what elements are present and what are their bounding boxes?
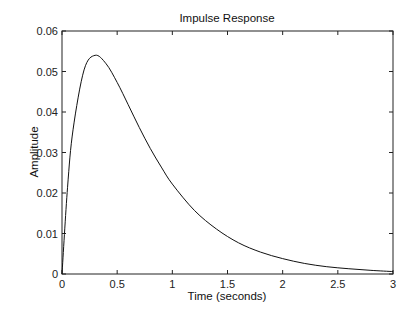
y-tick-label: 0 [52, 268, 58, 280]
x-axis: 00.511.522.53 [59, 31, 396, 290]
x-tick-label: 0 [59, 278, 65, 290]
plot-area [62, 31, 393, 274]
y-tick-label: 0.05 [37, 66, 58, 78]
y-tick-label: 0.01 [37, 228, 58, 240]
y-axis-label: Amplitude [28, 126, 40, 177]
x-tick-label: 3 [390, 278, 396, 290]
chart-title: Impulse Response [179, 12, 274, 24]
x-axis-label: Time (seconds) [188, 290, 267, 302]
x-tick-label: 2 [280, 278, 286, 290]
x-tick-label: 1.5 [220, 278, 235, 290]
x-tick-label: 1 [169, 278, 175, 290]
x-tick-label: 2.5 [330, 278, 345, 290]
x-tick-label: 0.5 [110, 278, 125, 290]
y-tick-label: 0.02 [37, 187, 58, 199]
impulse-response-chart: Impulse Response 00.511.522.53 00.010.02… [0, 0, 414, 318]
y-axis: 00.010.020.030.040.050.06 [37, 25, 393, 280]
response-curve [62, 55, 393, 274]
y-tick-label: 0.06 [37, 25, 58, 37]
y-tick-label: 0.04 [37, 106, 58, 118]
